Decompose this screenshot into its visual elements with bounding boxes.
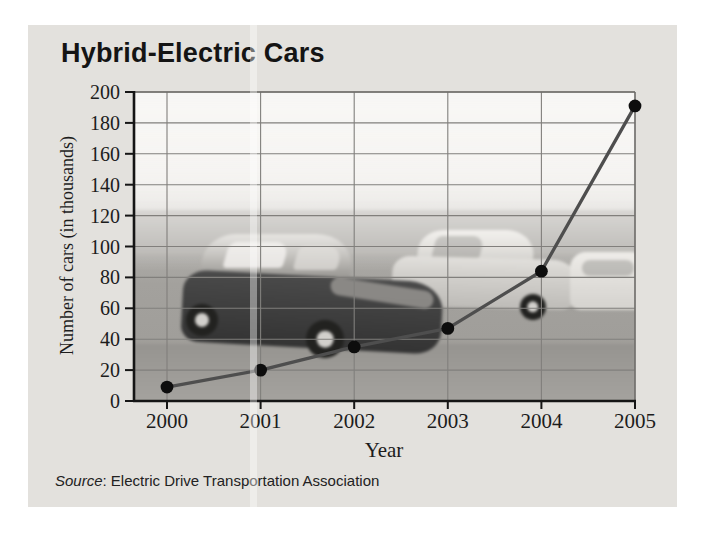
x-tick-label: 2001 [216, 409, 306, 433]
x-tick-label: 2002 [309, 409, 399, 433]
source-note: Source: Electric Drive Transportation As… [55, 472, 379, 489]
chart-figure: Hybrid-Electric Cars [28, 25, 677, 507]
x-tick-label: 2005 [590, 409, 680, 433]
x-tick-label: 2000 [122, 409, 212, 433]
x-axis-tick-labels: 200020012002200320042005 [28, 25, 677, 507]
source-text: : Electric Drive Transportation Associat… [103, 472, 380, 489]
y-axis-label: Number of cars (in thousands) [57, 96, 78, 396]
source-label: Source [55, 472, 103, 489]
x-tick-label: 2003 [403, 409, 493, 433]
page: Hybrid-Electric Cars [0, 0, 702, 537]
x-axis-label: Year [334, 438, 434, 463]
x-tick-label: 2004 [496, 409, 586, 433]
